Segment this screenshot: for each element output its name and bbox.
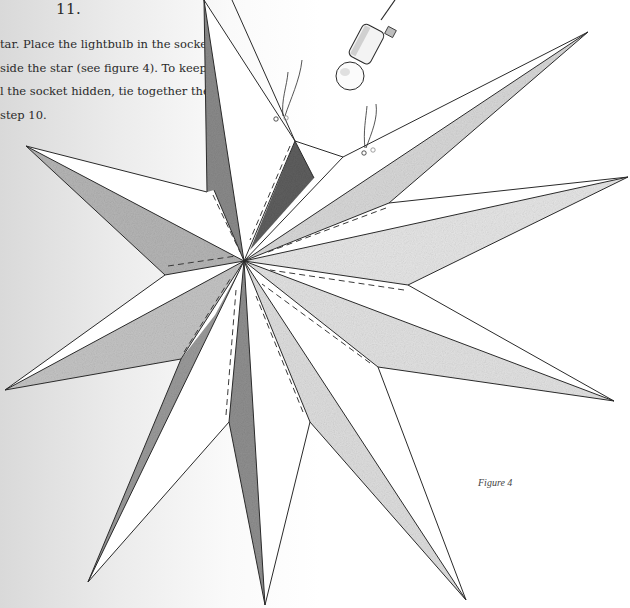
lightbulb-icon bbox=[336, 62, 364, 90]
instruction-page: 11. tar. Place the lightbulb in the sock… bbox=[0, 0, 630, 608]
star-body bbox=[5, 0, 628, 605]
figure-caption: Figure 4 bbox=[478, 477, 512, 488]
cord-icon bbox=[381, 0, 395, 20]
star-illustration bbox=[0, 0, 630, 608]
socket-icon bbox=[347, 16, 396, 70]
